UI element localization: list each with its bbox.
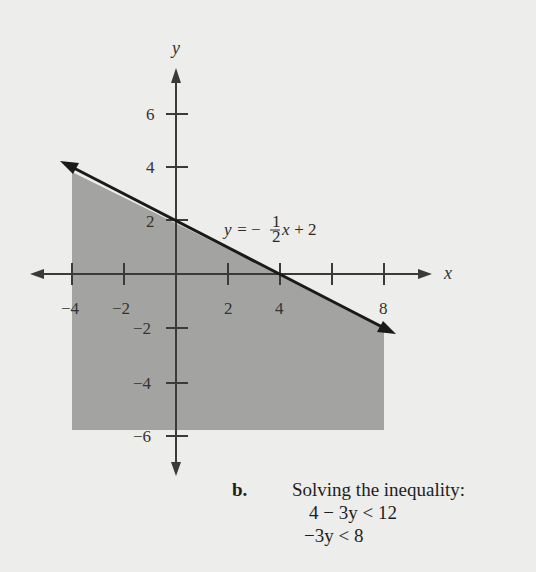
solution-heading: Solving the inequality:: [292, 478, 465, 501]
x-tick-label: −4: [61, 299, 80, 318]
fraction-denominator: 2: [272, 227, 281, 246]
y-tick-label: −6: [133, 427, 151, 446]
svg-text:+ 2: + 2: [290, 220, 317, 239]
x-tick-label: 8: [379, 299, 388, 318]
line-lower-right-arrow-icon: [377, 321, 396, 334]
solution-step: −3y < 8: [304, 524, 363, 547]
y-axis-label: y: [170, 38, 180, 58]
y-tick-label: 6: [146, 105, 155, 124]
line-upper-left-arrow-icon: [60, 161, 79, 174]
x-tick-label: 4: [275, 299, 284, 318]
y-axis-down-arrow-icon: [171, 462, 181, 476]
line-equation-label: y = − 1 2 x + 2: [222, 212, 317, 246]
x-tick-label: 2: [224, 299, 233, 318]
coordinate-graph: y x −4 −2 2 4 8 6 4 2 −2 −4 −6 y = − 1 2…: [0, 0, 536, 480]
x-tick-label: −2: [112, 299, 130, 318]
y-tick-label: 2: [146, 212, 155, 231]
x-axis-label: x: [443, 263, 452, 283]
x-axis-left-arrow-icon: [30, 269, 44, 279]
x-axis-right-arrow-icon: [418, 269, 432, 279]
svg-text:x: x: [281, 220, 290, 239]
svg-text:= −: = −: [233, 220, 261, 239]
svg-text:y: y: [222, 220, 232, 239]
y-tick-label: −2: [133, 319, 151, 338]
part-label: b.: [232, 478, 292, 501]
y-tick-label: −4: [133, 374, 152, 393]
y-axis-up-arrow-icon: [171, 68, 181, 83]
solution-step: 4 − 3y < 12: [309, 501, 397, 524]
y-tick-label: 4: [146, 158, 155, 177]
solution-block: b. Solving the inequality: 4 − 3y < 12 −…: [232, 478, 465, 501]
